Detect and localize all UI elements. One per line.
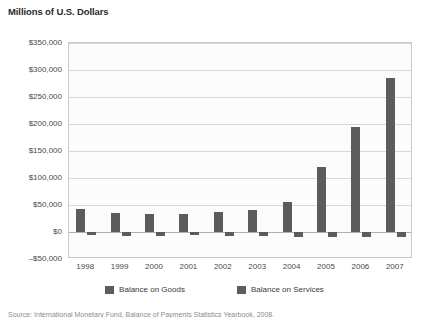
y-tick-label: $50,000 xyxy=(6,200,62,209)
chart-legend: Balance on GoodsBalance on Services xyxy=(0,285,429,294)
bar-balance-on-services-2004 xyxy=(294,232,303,237)
x-tick-label: 2005 xyxy=(317,262,335,271)
x-tick-label: 1999 xyxy=(111,262,129,271)
bar-balance-on-services-2002 xyxy=(225,232,234,236)
x-tick-label: 2001 xyxy=(179,262,197,271)
y-tick-label: $300,000 xyxy=(6,65,62,74)
bar-balance-on-services-2006 xyxy=(362,232,371,237)
x-tick-label: 2000 xyxy=(145,262,163,271)
legend-entry: Balance on Services xyxy=(237,285,324,294)
bar-balance-on-services-1998 xyxy=(87,232,96,235)
y-tick-label: $200,000 xyxy=(6,119,62,128)
bar-balance-on-goods-2002 xyxy=(214,212,223,232)
y-tick-label: $350,000 xyxy=(6,38,62,47)
gridline xyxy=(69,124,411,125)
chart-figure: Millions of U.S. Dollars –$50,000$0$50,0… xyxy=(0,0,429,320)
bar-balance-on-goods-2003 xyxy=(248,210,257,232)
x-tick-label: 2003 xyxy=(248,262,266,271)
y-tick-label: $150,000 xyxy=(6,146,62,155)
legend-label: Balance on Goods xyxy=(119,285,185,294)
chart-title: Millions of U.S. Dollars xyxy=(8,6,109,17)
bar-balance-on-goods-1999 xyxy=(111,213,120,232)
y-tick-label: $250,000 xyxy=(6,92,62,101)
legend-swatch-services xyxy=(237,286,246,294)
x-tick-label: 2004 xyxy=(283,262,301,271)
gridline xyxy=(69,43,411,44)
gridline xyxy=(69,70,411,71)
bar-balance-on-goods-2001 xyxy=(179,214,188,232)
y-tick-label: $100,000 xyxy=(6,173,62,182)
y-tick-label: $0 xyxy=(6,227,62,236)
x-tick-label: 2006 xyxy=(351,262,369,271)
x-tick-label: 1998 xyxy=(76,262,94,271)
zero-gridline xyxy=(69,232,411,233)
x-tick-label: 2002 xyxy=(214,262,232,271)
bar-balance-on-goods-2006 xyxy=(351,127,360,232)
x-tick-label: 2007 xyxy=(386,262,404,271)
bar-balance-on-services-2000 xyxy=(156,232,165,236)
bar-balance-on-services-2003 xyxy=(259,232,268,236)
bar-balance-on-services-2005 xyxy=(328,232,337,237)
legend-swatch-goods xyxy=(105,286,114,294)
legend-label: Balance on Services xyxy=(251,285,324,294)
source-note: Source: International Monetary Fund, Bal… xyxy=(8,311,429,318)
bar-balance-on-services-2007 xyxy=(397,232,406,237)
legend-entry: Balance on Goods xyxy=(105,285,185,294)
plot-area xyxy=(68,42,412,258)
y-tick-label: –$50,000 xyxy=(6,254,62,263)
bar-balance-on-goods-2000 xyxy=(145,214,154,232)
bar-balance-on-services-1999 xyxy=(122,232,131,236)
bar-balance-on-goods-2004 xyxy=(283,202,292,232)
bar-balance-on-goods-2005 xyxy=(317,167,326,232)
bar-balance-on-goods-2007 xyxy=(386,78,395,232)
bar-balance-on-services-2001 xyxy=(190,232,199,235)
gridline xyxy=(69,97,411,98)
bar-balance-on-goods-1998 xyxy=(76,209,85,232)
